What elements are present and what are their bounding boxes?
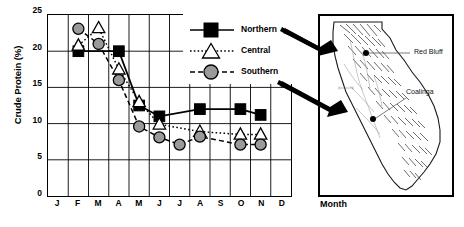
data-point-southern-N <box>255 139 266 150</box>
legend-label-northern: Northern <box>241 24 277 34</box>
data-point-southern-M <box>134 121 145 132</box>
legend-item-southern: Southern <box>189 62 292 82</box>
chart-legend: Northern Central South <box>183 14 292 84</box>
y-tick-10: 10 <box>33 116 42 124</box>
data-point-central-M <box>92 22 104 33</box>
x-axis-tick-labels: JFMAMJJASOND <box>47 198 292 214</box>
x-tick-7: A <box>197 198 203 208</box>
x-axis-title: Month <box>320 199 347 209</box>
data-point-central-F <box>72 39 84 50</box>
data-point-northern-O <box>235 104 246 115</box>
data-point-central-N <box>254 128 266 139</box>
x-tick-2: M <box>94 198 101 208</box>
x-tick-0: J <box>55 198 60 208</box>
open-triangle-icon <box>189 41 235 61</box>
x-tick-6: J <box>177 198 182 208</box>
data-point-northern-A <box>114 46 125 57</box>
filled-circle-icon <box>189 62 235 82</box>
data-point-northern-N <box>255 110 266 121</box>
x-tick-5: J <box>157 198 162 208</box>
y-tick-0: 0 <box>37 189 42 197</box>
data-point-southern-F <box>73 23 84 34</box>
legend-label-central: Central <box>241 45 270 55</box>
data-point-southern-M <box>93 38 104 49</box>
map-label-coalinga: Coalinga <box>406 88 434 95</box>
y-tick-20: 20 <box>33 43 42 51</box>
data-point-southern-J <box>154 132 165 143</box>
filled-square-icon <box>189 20 235 40</box>
data-point-northern-A <box>195 104 206 115</box>
x-tick-8: S <box>218 198 224 208</box>
x-tick-9: O <box>238 198 245 208</box>
map-label-red-bluff: Red Bluff <box>414 48 443 55</box>
data-point-southern-A <box>113 75 124 86</box>
map-panel-california: Red Bluff Coalinga <box>318 14 454 197</box>
city-dot-coalinga <box>370 116 376 122</box>
x-tick-11: D <box>279 198 285 208</box>
data-point-southern-A <box>194 131 205 142</box>
y-tick-5: 5 <box>37 152 42 160</box>
chart-panel: Crude Protein (%) 25 20 15 10 5 0 JFMAMJ… <box>0 0 312 227</box>
legend-label-southern: Southern <box>241 66 278 76</box>
y-tick-15: 15 <box>33 79 42 87</box>
x-tick-4: M <box>135 198 142 208</box>
x-tick-1: F <box>75 198 80 208</box>
california-map-svg <box>320 16 452 195</box>
y-axis-tick-labels: 25 20 15 10 5 0 <box>22 10 42 200</box>
x-tick-3: A <box>115 198 121 208</box>
figure-root: Crude Protein (%) 25 20 15 10 5 0 JFMAMJ… <box>0 0 464 227</box>
data-point-southern-O <box>235 139 246 150</box>
y-tick-25: 25 <box>33 6 42 14</box>
x-tick-10: N <box>258 198 264 208</box>
legend-item-northern: Northern <box>189 20 292 40</box>
city-dot-red-bluff <box>363 50 369 56</box>
legend-item-central: Central <box>189 41 292 61</box>
data-point-southern-J <box>174 139 185 150</box>
